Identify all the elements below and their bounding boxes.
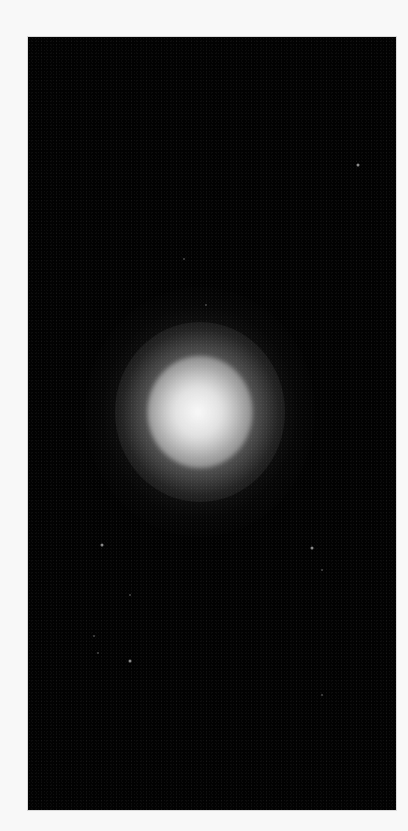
star-speck: [205, 304, 207, 306]
star-speck: [321, 694, 323, 696]
star-speck: [93, 635, 95, 637]
star-speck: [129, 660, 132, 663]
star-speck: [183, 258, 185, 260]
star-speck: [129, 594, 131, 596]
star-speck: [97, 652, 99, 654]
photograph-panel: [28, 37, 396, 810]
star-speck: [357, 164, 360, 167]
glow-core: [148, 356, 253, 468]
star-speck: [311, 547, 314, 550]
page: [0, 0, 408, 831]
star-speck: [321, 569, 323, 571]
star-speck: [101, 544, 104, 547]
